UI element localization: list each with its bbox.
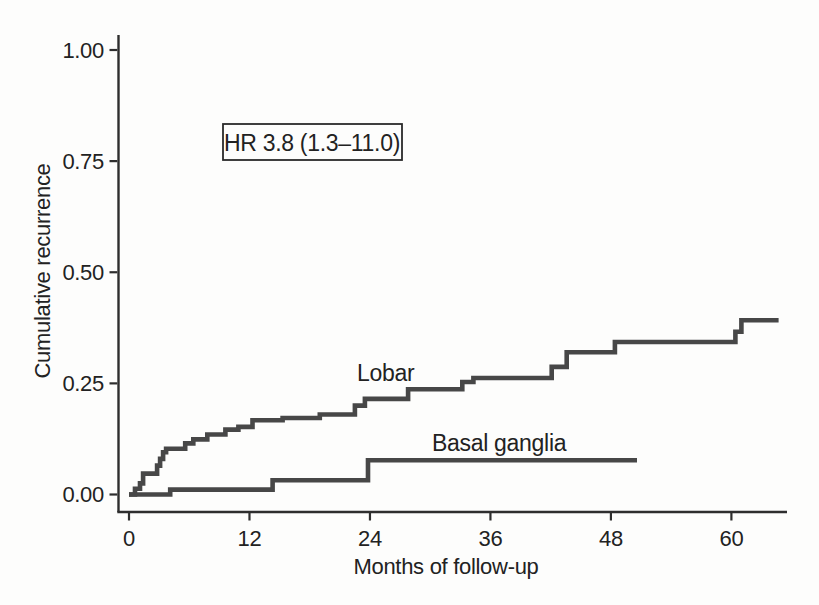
- series-lines: [129, 320, 779, 494]
- y-tick-label: 0.50: [62, 260, 104, 285]
- x-tick-label: 24: [358, 526, 382, 551]
- y-axis-title: Cumulative recurrence: [30, 163, 55, 378]
- y-tick-label: 0.25: [62, 371, 104, 396]
- y-tick-label: 0.00: [62, 482, 104, 507]
- y-axis: 0.000.250.500.751.00: [62, 35, 118, 512]
- series-label-basal-ganglia: Basal ganglia: [432, 430, 567, 456]
- x-axis-title: Months of follow-up: [353, 554, 538, 579]
- series-line-basal-ganglia: [129, 460, 637, 494]
- x-tick-label: 60: [719, 526, 743, 551]
- x-tick-label: 0: [123, 526, 135, 551]
- figure-canvas: 0.000.250.500.751.00 01224364860 Cumulat…: [0, 0, 819, 605]
- series-line-lobar: [129, 320, 779, 494]
- y-axis-ticks: 0.000.250.500.751.00: [62, 38, 117, 508]
- km-curve-chart: 0.000.250.500.751.00 01224364860 Cumulat…: [0, 0, 819, 605]
- x-axis: 01224364860: [117, 512, 787, 551]
- x-tick-label: 12: [238, 526, 262, 551]
- x-axis-ticks: 01224364860: [123, 512, 743, 551]
- x-tick-label: 36: [479, 526, 503, 551]
- y-tick-label: 1.00: [62, 38, 104, 63]
- y-tick-label: 0.75: [62, 149, 104, 174]
- series-label-lobar: Lobar: [357, 360, 415, 386]
- hr-annotation-text: HR 3.8 (1.3–11.0): [224, 130, 400, 156]
- hr-annotation: HR 3.8 (1.3–11.0): [223, 124, 402, 160]
- x-tick-label: 48: [599, 526, 623, 551]
